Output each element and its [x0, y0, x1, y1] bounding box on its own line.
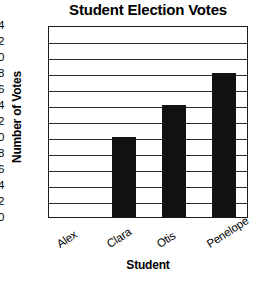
y-axis-tick-label: 0	[0, 212, 4, 224]
x-axis-tick-label: Penelope	[204, 214, 250, 250]
bar-penelope	[212, 73, 236, 217]
gridline	[49, 59, 247, 60]
bar-clara	[112, 137, 136, 217]
y-axis-tick-label: 18	[0, 68, 4, 80]
bar-otis	[162, 105, 186, 217]
y-axis-tick-label: 16	[0, 84, 4, 96]
x-axis-tick-label: Clara	[104, 226, 133, 250]
x-axis-tick-label: Alex	[54, 228, 79, 250]
y-axis-tick-label: 14	[0, 100, 4, 112]
y-axis-tick-label: 22	[0, 36, 4, 48]
y-axis-tick-label: 2	[0, 196, 4, 208]
y-axis-tick-label: 24	[0, 20, 4, 32]
y-axis-title: Number of Votes	[10, 52, 24, 182]
x-axis-tick-label: Otis	[154, 229, 177, 250]
y-axis-tick-label: 8	[0, 148, 4, 160]
y-axis-tick-label: 10	[0, 132, 4, 144]
y-axis-tick-label: 6	[0, 164, 4, 176]
x-axis-title: Student	[48, 258, 248, 272]
y-axis-tick-label: 4	[0, 180, 4, 192]
chart-title: Student Election Votes	[40, 1, 256, 19]
plot-area	[48, 26, 248, 218]
gridline	[49, 43, 247, 44]
y-axis-tick-label: 20	[0, 52, 4, 64]
bar-chart: Student Election Votes Number of Votes 0…	[0, 0, 256, 281]
y-axis-tick-label: 12	[0, 116, 4, 128]
